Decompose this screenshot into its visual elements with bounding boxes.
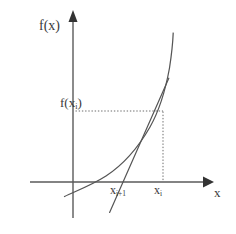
- x-current-subscript: i: [160, 189, 162, 198]
- x-axis-arrow-icon: [203, 177, 214, 188]
- diagram-canvas: [0, 0, 236, 234]
- x-axis-label: x: [214, 186, 221, 199]
- function-curve: [65, 33, 174, 197]
- x-current-label: xi: [154, 184, 162, 198]
- y-axis: [69, 10, 78, 218]
- y-axis-label: f(x): [39, 19, 60, 33]
- x-next-label: xi+1: [110, 184, 126, 198]
- y-axis-arrow-icon: [69, 10, 78, 22]
- x-next-subscript: i+1: [116, 189, 126, 198]
- function-value-close: ): [77, 95, 81, 110]
- newton-raphson-diagram: f(x) f(xi) xi+1 xi x: [0, 0, 236, 234]
- function-value-label: f(xi): [60, 96, 82, 111]
- function-value-base: f(x: [60, 95, 75, 110]
